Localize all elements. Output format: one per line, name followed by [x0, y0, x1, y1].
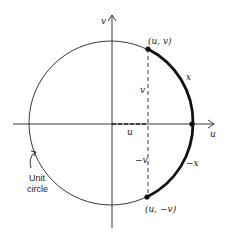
point-right	[189, 121, 194, 126]
arc-neg-x-label: −x	[186, 158, 199, 168]
u-segment-label: u	[127, 127, 133, 137]
v-axis-label: v	[101, 16, 106, 26]
point-lower-label: (u, −v)	[145, 204, 177, 214]
point-lower	[144, 194, 149, 199]
point-upper-label: (u, v)	[148, 36, 172, 46]
point-upper	[145, 46, 150, 51]
unit-circle-label-line2: circle	[27, 184, 48, 194]
unit-circle-pointer	[30, 152, 35, 168]
v-segment-label: v	[140, 85, 145, 95]
neg-v-segment-label: −v	[135, 155, 148, 165]
u-axis-label: u	[210, 129, 216, 139]
arc-x-label: x	[186, 72, 191, 82]
unit-circle-label-line1: Unit	[29, 173, 46, 183]
unit-circle-diagram: v u (u, v) (u, −v) v −v u x −x Unit circ…	[0, 0, 227, 236]
